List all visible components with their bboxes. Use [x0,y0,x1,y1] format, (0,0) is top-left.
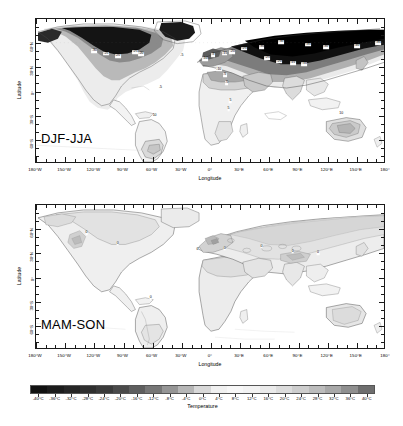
contour-label: -30 [91,49,97,53]
colorbar-tick-label: -36°C [49,396,60,401]
axis-tick [279,205,280,208]
x-tick-label: 0° [208,353,212,358]
axis-tick [337,19,338,22]
colorbar-tick-label: 20°C [280,396,290,401]
contour-label: 0 [317,252,320,256]
axis-tick [192,205,193,208]
y-tick-label: 0° [30,91,35,95]
axis-tick [221,205,222,208]
axis-tick [260,345,261,348]
axis-tick [381,294,384,295]
x-tick-label: 30°W [175,167,186,172]
panel-mam-son: 00000000 180°W150°W120°W90°W60°W30°W0°30… [0,190,403,380]
y-tick-label: 60°N [30,228,35,238]
axis-tick [36,278,41,279]
axis-tick [269,205,270,210]
colorbar-tick-label: -4°C [182,396,191,401]
axis-tick [381,269,384,270]
contour-label: 0 [149,297,152,301]
axis-tick [36,132,39,133]
x-tick-label: 180°W [28,353,42,358]
contour-label: 5 [229,99,232,103]
axis-tick [230,205,231,208]
axis-tick [381,245,384,246]
colorbar-tick-label: 8°C [232,396,239,401]
axis-tick [347,19,348,22]
axis-tick [172,19,173,22]
axis-tick [379,278,384,279]
axis-tick [381,213,384,214]
x-tick-label: 30°W [175,353,186,358]
axis-tick [269,157,270,162]
axis-tick [211,343,212,348]
contour-label: -40 [354,45,360,49]
colorbar-swatch [194,386,210,393]
panel-djf-jja: -30-25-20-25-20-5-5-10-15-20-25-30-35-35… [0,0,403,190]
colorbar-swatch [292,386,308,393]
axis-tick [381,75,384,76]
x-tick-label: 30°E [234,167,244,172]
axis-tick [94,157,95,162]
axis-tick [381,334,384,335]
colorbar-swatch [31,386,47,393]
contour-label: -35 [305,43,311,47]
axis-tick [36,75,39,76]
contour-label: -25 [103,52,109,56]
axis-tick [379,140,384,141]
colorbar-swatch [113,386,129,393]
contour-label: -25 [241,47,247,51]
axis-tick [36,310,39,311]
axis-tick [85,159,86,162]
axis-tick [308,345,309,348]
x-tick-label: 180° [380,353,389,358]
contour-label: -15 [290,62,296,66]
contour-label: 10 [339,112,344,116]
axis-tick [379,229,384,230]
axis-tick [211,205,212,210]
x-tick-label: 150°W [57,353,71,358]
x-tick-label: 90°E [293,167,303,172]
contour-label: 0 [116,242,119,246]
axis-tick [250,345,251,348]
x-tick-label: 60°W [146,353,157,358]
axis-tick [299,19,300,24]
axis-tick [182,205,183,210]
axis-tick [308,205,309,208]
axis-tick [211,19,212,24]
axis-tick [367,19,368,22]
axis-tick [240,19,241,24]
axis-tick [367,159,368,162]
axis-tick [75,345,76,348]
x-tick-label: 180°W [28,167,42,172]
axis-tick [230,345,231,348]
axis-tick [230,19,231,22]
axis-tick [55,19,56,22]
axis-tick [376,345,377,348]
x-tick-label: 0° [208,167,212,172]
axis-tick [124,157,125,162]
axis-tick [182,343,183,348]
axis-tick [36,221,39,222]
axis-tick [289,345,290,348]
colorbar-swatch [260,386,276,393]
axis-tick [36,108,39,109]
axis-tick [347,345,348,348]
contour-label: -35 [278,41,284,45]
colorbar-swatch [129,386,145,393]
axis-tick [36,245,39,246]
axis-tick [36,157,37,162]
colorbar-tick-label: 16°C [263,396,273,401]
axis-tick [36,92,41,93]
axis-tick [289,205,290,208]
axis-tick [75,19,76,22]
colorbar-tick-label: 12°C [247,396,257,401]
axis-tick [381,148,384,149]
x-tick-label: 120°E [320,353,333,358]
axis-tick [36,237,39,238]
axis-tick [114,345,115,348]
axis-tick [55,159,56,162]
colorbar-swatch [145,386,161,393]
axis-tick [65,205,66,210]
y-tick-label: 30°S [30,115,35,125]
axis-tick [328,19,329,24]
